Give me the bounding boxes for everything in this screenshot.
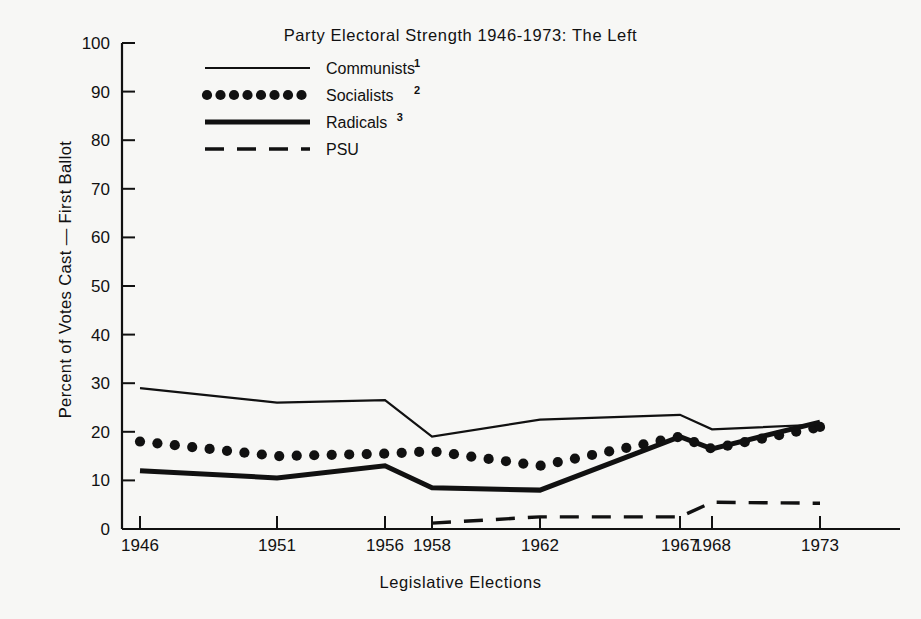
socialist-data-dot bbox=[621, 443, 631, 453]
socialist-data-dot bbox=[292, 451, 302, 461]
socialist-data-dot bbox=[222, 446, 232, 456]
legend-swatch-dotted bbox=[256, 90, 266, 100]
x-tick-label: 1946 bbox=[121, 536, 159, 555]
legend-label: Radicals bbox=[326, 114, 387, 131]
y-tick-label: 50 bbox=[91, 277, 110, 296]
socialist-data-dot bbox=[344, 449, 354, 459]
socialist-data-dot bbox=[187, 442, 197, 452]
y-tick-label: 70 bbox=[91, 180, 110, 199]
legend-label: Socialists bbox=[326, 87, 394, 104]
legend-swatch-dotted bbox=[215, 90, 225, 100]
legend-footnote-marker: 1 bbox=[414, 57, 420, 69]
socialist-data-dot bbox=[553, 457, 563, 467]
socialist-data-dot bbox=[484, 454, 494, 464]
y-tick-label: 30 bbox=[91, 374, 110, 393]
socialist-data-dot bbox=[257, 449, 267, 459]
socialist-data-dot bbox=[274, 451, 284, 461]
socialist-data-dot bbox=[205, 444, 215, 454]
socialist-data-dot bbox=[239, 448, 249, 458]
chart-page: Party Electoral Strength 1946-1973: The … bbox=[0, 0, 921, 619]
legend-footnote-marker: 3 bbox=[397, 111, 403, 123]
chart-legend: Communists1Socialists2Radicals3PSU bbox=[202, 57, 420, 158]
y-tick-label: 0 bbox=[101, 520, 110, 539]
socialist-data-dot bbox=[449, 449, 459, 459]
legend-swatch-dotted bbox=[269, 90, 279, 100]
legend-footnote-marker: 2 bbox=[414, 84, 420, 96]
socialist-data-dot bbox=[170, 440, 180, 450]
socialist-data-dot bbox=[604, 446, 614, 456]
legend-label: PSU bbox=[326, 141, 359, 158]
series-psu bbox=[432, 502, 820, 523]
chart-plot-area: 0102030405060708090100 19461951195619581… bbox=[0, 0, 921, 619]
socialist-data-dot bbox=[536, 461, 546, 471]
series-layer bbox=[135, 388, 825, 523]
socialist-data-dot bbox=[431, 447, 441, 457]
socialist-data-dot bbox=[309, 450, 319, 460]
socialist-data-dot bbox=[327, 450, 337, 460]
x-tick-label: 1958 bbox=[413, 536, 451, 555]
socialist-data-dot bbox=[587, 450, 597, 460]
x-tick-label: 1956 bbox=[366, 536, 404, 555]
y-tick-label: 10 bbox=[91, 471, 110, 490]
legend-label: Communists bbox=[326, 60, 415, 77]
y-tick-label: 40 bbox=[91, 326, 110, 345]
y-tick-group: 0102030405060708090100 bbox=[82, 34, 135, 539]
socialist-data-dot bbox=[570, 453, 580, 463]
legend-swatch-dotted bbox=[296, 90, 306, 100]
series-communists bbox=[140, 388, 820, 437]
legend-swatch-dotted bbox=[229, 90, 239, 100]
socialist-data-dot bbox=[152, 438, 162, 448]
y-tick-label: 80 bbox=[91, 131, 110, 150]
socialist-data-dot bbox=[501, 456, 511, 466]
y-tick-label: 100 bbox=[82, 34, 110, 53]
x-tick-label: 1951 bbox=[258, 536, 296, 555]
x-tick-label: 1962 bbox=[521, 536, 559, 555]
y-tick-label: 60 bbox=[91, 228, 110, 247]
legend-swatch-dotted bbox=[283, 90, 293, 100]
socialist-data-dot bbox=[362, 449, 372, 459]
socialist-data-dot bbox=[379, 449, 389, 459]
socialist-data-dot bbox=[397, 448, 407, 458]
socialist-data-dot bbox=[135, 436, 145, 446]
legend-swatch-dotted bbox=[242, 90, 252, 100]
socialist-data-dot bbox=[414, 447, 424, 457]
y-tick-label: 20 bbox=[91, 423, 110, 442]
socialist-data-dot bbox=[466, 451, 476, 461]
legend-swatch-dotted bbox=[202, 90, 212, 100]
y-tick-label: 90 bbox=[91, 83, 110, 102]
x-tick-label: 1968 bbox=[693, 536, 731, 555]
x-tick-label: 1973 bbox=[801, 536, 839, 555]
socialist-data-dot bbox=[518, 458, 528, 468]
